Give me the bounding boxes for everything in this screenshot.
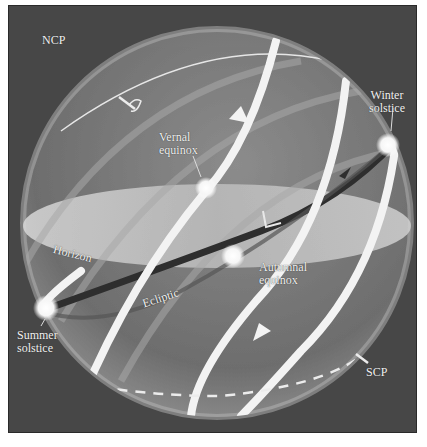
winter-solstice-star-icon (376, 133, 400, 157)
autumnal-equinox-star-icon (221, 244, 245, 268)
diagram-panel: NCP Vernal equinox Winter solstice Autum… (8, 5, 417, 433)
winter-label-line2: solstice (369, 102, 405, 115)
cropped-caption (8, 437, 308, 447)
celestial-sphere-figure (9, 6, 417, 433)
winter-solstice-label: Winter solstice (369, 89, 405, 115)
summer-solstice-label: Summer solstice (17, 329, 58, 355)
ncp-label: NCP (42, 34, 65, 47)
autumnal-label-line2: equinox (259, 274, 307, 287)
summer-label-line2: solstice (17, 342, 58, 355)
scp-label: SCP (366, 366, 387, 379)
vernal-equinox-label: Vernal equinox (159, 131, 198, 157)
vernal-label-line2: equinox (159, 144, 198, 157)
autumnal-equinox-label: Autumnal equinox (259, 261, 307, 287)
vernal-equinox-star-icon (195, 177, 217, 199)
summer-solstice-star-icon (33, 295, 59, 321)
